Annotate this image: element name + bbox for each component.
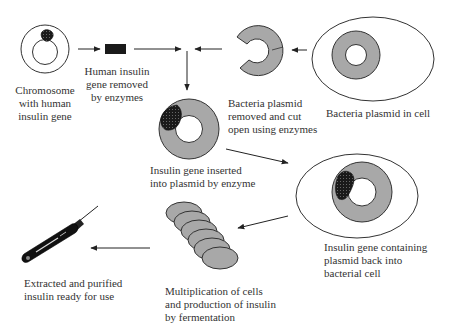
recombinant-plasmid-label: Insulin gene inserted into plasmid by en… [150, 164, 255, 190]
chromosome-with-gene-icon [21, 25, 69, 73]
insulin-pen-label: Extracted and purified insulin ready for… [24, 277, 122, 303]
arrow-plasmid-to-recombinant-cell [226, 149, 288, 163]
plasmid-in-cell-label: Bacteria plasmid in cell [326, 107, 430, 120]
insulin-production-diagram: Chromosome with human insulin gene Human… [0, 0, 452, 328]
cut-plasmid-icon [237, 26, 283, 76]
insulin-pen-icon [22, 206, 98, 262]
arrow-cell-to-fermentation [238, 216, 288, 228]
recombinant-plasmid-icon [159, 99, 219, 159]
plasmid-in-cell-icon [312, 17, 434, 101]
insulin-gene-block-icon [105, 44, 126, 54]
chromosome-label: Chromosome with human insulin gene [4, 84, 86, 123]
recombinant-cell-label: Insulin gene containing plasmid back int… [324, 241, 427, 280]
fermentation-label: Multiplication of cells and production o… [165, 285, 276, 324]
multiplying-cells-icon [166, 202, 238, 269]
recombinant-cell-icon [296, 154, 418, 238]
cut-plasmid-label: Bacteria plasmid removed and cut open us… [228, 97, 317, 136]
gene-removed-label: Human insulin gene removed by enzymes [80, 65, 154, 104]
